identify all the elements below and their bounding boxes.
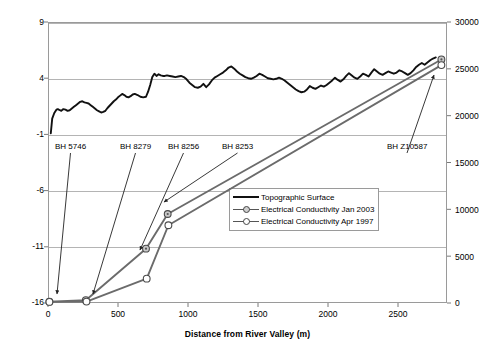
legend-label: Electrical Conductivity Apr 1997 [261, 217, 374, 226]
borehole-label-bh-5746: BH 5746 [55, 142, 86, 151]
gridline [49, 23, 446, 24]
plot-area [48, 22, 447, 303]
legend-label: Electrical Conductivity Jan 2003 [261, 205, 374, 214]
y-left-tick-label: -1 [20, 129, 44, 139]
y-left-tick-label: 9 [20, 17, 44, 27]
borehole-label-bh-8279: BH 8279 [120, 142, 151, 151]
borehole-label-bh-z10587: BH Z10587 [387, 142, 427, 151]
y-left-tick-label: -16 [20, 297, 44, 307]
y-axis-left-title: Relative topographic elevation (m) [0, 0, 10, 50]
x-tick-label: 500 [95, 309, 141, 319]
y-left-tick-label: 4 [20, 73, 44, 83]
chart-legend: Topographic Surface Electrical Conductiv… [229, 188, 379, 231]
y-right-tick-label: 25000 [455, 64, 495, 74]
legend-item-ec-apr-1997: Electrical Conductivity Apr 1997 [233, 215, 374, 227]
y-left-tick-label: -6 [20, 185, 44, 195]
y-left-tick-label: -11 [20, 241, 44, 251]
y-right-tick-label: 5000 [455, 252, 495, 262]
y-right-tick-label: 10000 [455, 205, 495, 215]
borehole-label-bh-8253: BH 8253 [222, 142, 253, 151]
x-axis-title: Distance from River Valley (m) [48, 329, 447, 339]
x-tick-label: 1500 [235, 309, 281, 319]
x-tick-label: 0 [25, 309, 71, 319]
legend-item-topographic-surface: Topographic Surface [233, 191, 374, 203]
gridline [49, 135, 446, 136]
chart-figure: 9 4 -1 -6 -11 -16 30000 25000 20000 1500… [0, 0, 499, 350]
y-right-tick-label: 15000 [455, 158, 495, 168]
legend-swatch-marker-filled-icon [233, 204, 259, 215]
legend-swatch-line-icon [233, 192, 259, 203]
y-right-tick-label: 20000 [455, 111, 495, 121]
borehole-label-bh-8256: BH 8256 [168, 142, 199, 151]
y-right-tick-label: 0 [455, 298, 495, 308]
y-axis-right-title: Electrical Conductivity (micro S/cm) [466, 0, 480, 50]
gridline [49, 79, 446, 80]
legend-swatch-marker-open-icon [233, 216, 259, 227]
x-tick-label: 2500 [375, 309, 421, 319]
x-tick-label: 1000 [165, 309, 211, 319]
legend-item-ec-jan-2003: Electrical Conductivity Jan 2003 [233, 203, 374, 215]
legend-label: Topographic Surface [261, 193, 334, 202]
x-tick-label: 2000 [305, 309, 351, 319]
gridline [49, 247, 446, 248]
